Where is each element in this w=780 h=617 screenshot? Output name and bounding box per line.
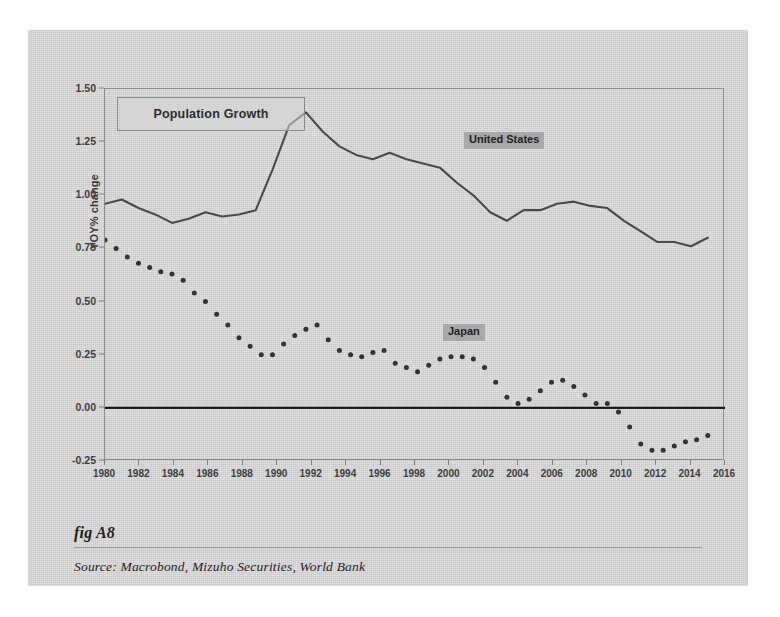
x-tick-label: 1996 (368, 468, 390, 479)
y-axis-title: YOY% change (88, 132, 100, 292)
series-japan-dots (105, 237, 710, 452)
data-point (482, 365, 487, 370)
data-point (627, 424, 632, 429)
y-tick-label: 0.50 (76, 295, 96, 307)
x-tick-label: 1990 (265, 468, 287, 479)
x-tick-label: 1992 (300, 468, 322, 479)
data-point (105, 237, 108, 242)
data-point (147, 265, 152, 270)
data-point (705, 433, 710, 438)
x-tick-label: 2012 (644, 468, 666, 479)
data-point (315, 322, 320, 327)
data-point (571, 384, 576, 389)
data-point (504, 395, 509, 400)
x-tick-label: 1994 (334, 468, 356, 479)
x-tick-label: 2000 (437, 468, 459, 479)
y-tick-label: 0.00 (76, 401, 96, 413)
y-tick-label: -0.25 (72, 454, 96, 466)
x-tick-label: 2006 (541, 468, 563, 479)
data-point (404, 365, 409, 370)
data-point (616, 410, 621, 415)
data-point (449, 354, 454, 359)
data-point (370, 350, 375, 355)
figure-label: fig A8 (74, 524, 704, 542)
y-tick-label: 1.50 (76, 82, 96, 94)
data-point (326, 337, 331, 342)
data-point (248, 344, 253, 349)
data-point (516, 401, 521, 406)
caption-divider (74, 547, 702, 548)
x-tick-label: 2010 (610, 468, 632, 479)
x-tick-label: 2008 (575, 468, 597, 479)
series-label-united-states: United States (464, 132, 544, 149)
data-point (270, 352, 275, 357)
data-point (136, 261, 141, 266)
data-point (348, 352, 353, 357)
data-point (181, 278, 186, 283)
data-point (638, 441, 643, 446)
data-point (471, 356, 476, 361)
data-point (527, 397, 532, 402)
data-point (169, 271, 174, 276)
x-tick-label: 2002 (472, 468, 494, 479)
data-point (259, 352, 264, 357)
x-tick-label: 1984 (162, 468, 184, 479)
source-attribution: Source: Macrobond, Mizuho Securities, Wo… (74, 559, 704, 575)
figure-panel: YOY% change 1.501.251.000.750.500.250.00… (28, 30, 748, 586)
data-point (292, 333, 297, 338)
data-point (661, 448, 666, 453)
data-point (582, 393, 587, 398)
caption-block: fig A8 Source: Macrobond, Mizuho Securit… (74, 524, 704, 575)
data-point (672, 444, 677, 449)
data-point (683, 439, 688, 444)
x-tick-label: 1988 (231, 468, 253, 479)
data-point (114, 246, 119, 251)
data-point (281, 342, 286, 347)
data-point (460, 354, 465, 359)
x-tick-label: 1980 (93, 468, 115, 479)
data-point (337, 348, 342, 353)
x-tick-label: 2004 (506, 468, 528, 479)
x-tick-label: 2014 (678, 468, 700, 479)
data-point (538, 388, 543, 393)
data-point (125, 254, 130, 259)
data-point (415, 369, 420, 374)
data-point (303, 327, 308, 332)
data-point (214, 312, 219, 317)
data-point (158, 269, 163, 274)
data-point (192, 291, 197, 296)
data-point (649, 448, 654, 453)
x-tick-label: 1998 (403, 468, 425, 479)
y-tick-label: 0.25 (76, 348, 96, 360)
y-tick-label: 1.25 (76, 135, 96, 147)
data-point (236, 335, 241, 340)
data-point (694, 437, 699, 442)
series-label-japan: Japan (443, 324, 485, 341)
x-tick-label: 2016 (713, 468, 735, 479)
data-point (437, 356, 442, 361)
data-point (493, 380, 498, 385)
chart-title-box: Population Growth (117, 97, 305, 131)
data-point (225, 322, 230, 327)
data-point (203, 299, 208, 304)
data-point (359, 354, 364, 359)
data-point (382, 348, 387, 353)
data-point (594, 401, 599, 406)
data-point (560, 378, 565, 383)
y-tick-label: 1.00 (76, 188, 96, 200)
plot-area: Population Growth United States Japan (104, 88, 724, 460)
x-tick-label: 1982 (127, 468, 149, 479)
data-point (393, 361, 398, 366)
x-tick-label: 1986 (196, 468, 218, 479)
series-united-states-line (105, 112, 708, 246)
chart-title-text: Population Growth (153, 107, 268, 121)
plot-svg (105, 89, 725, 461)
chart-container: YOY% change 1.501.251.000.750.500.250.00… (28, 30, 748, 490)
y-tick-label: 0.75 (76, 241, 96, 253)
data-point (549, 380, 554, 385)
data-point (605, 401, 610, 406)
data-point (426, 363, 431, 368)
